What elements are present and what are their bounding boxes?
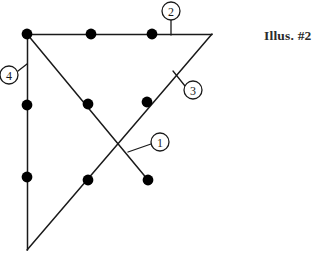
diagram-segments (27, 34, 212, 250)
node-left-lower (22, 172, 33, 183)
node-descend-upper (83, 99, 94, 110)
node-left-upper (22, 100, 33, 111)
callout-4[interactable]: 4 (0, 66, 18, 84)
node-ascend-lower (83, 175, 94, 186)
figure-caption: Illus. #2 (264, 28, 312, 44)
node-top-mid-left (86, 29, 97, 40)
node-top-mid-right (147, 29, 158, 40)
illustration-figure: 1 2 3 4 Illus. #2 (0, 0, 320, 253)
callout-4-leader (18, 64, 27, 71)
callout-4-label: 4 (6, 69, 12, 83)
callout-2[interactable]: 2 (162, 2, 180, 20)
callout-1-label: 1 (157, 136, 163, 150)
callout-1-leader (128, 144, 151, 152)
callout-3[interactable]: 3 (184, 81, 202, 99)
callout-leader-lines (18, 20, 185, 152)
callout-2-label: 2 (168, 5, 174, 19)
callout-3-label: 3 (190, 84, 196, 98)
node-descend-end (143, 175, 154, 186)
node-ascend-upper (142, 97, 153, 108)
callout-1[interactable]: 1 (151, 133, 169, 151)
node-top-left-corner (22, 29, 33, 40)
